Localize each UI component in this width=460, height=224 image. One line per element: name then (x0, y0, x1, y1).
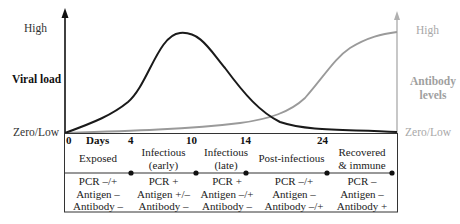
antibody-result: Antibody – (65, 200, 131, 213)
right-high-label: High (416, 24, 439, 36)
stage-name: Exposed (65, 152, 131, 165)
stage-name: Recovered (327, 146, 397, 159)
tests-recovered: PCR – Antigen – Antibody + (327, 175, 397, 213)
pcr-result: PCR + (131, 175, 196, 188)
pcr-result: PCR –/+ (65, 175, 131, 188)
tests-infectious-early: PCR + Antigen +/– Antibody – (131, 175, 196, 213)
right-axis-arrow-icon (394, 11, 400, 20)
right-axis-title-line1: Antibody (406, 74, 460, 88)
tests-exposed: PCR –/+ Antigen – Antibody – (65, 175, 131, 213)
antigen-result: Antigen – (258, 188, 330, 201)
antigen-result: Antigen –/+ (194, 188, 260, 201)
antibody-result: Antibody –/+ (258, 200, 330, 213)
stage-name: Infectious (196, 146, 256, 159)
right-axis-title-line2: levels (406, 88, 460, 102)
antigen-result: Antigen +/– (131, 188, 196, 201)
tests-post-infectious: PCR –/+ Antigen – Antibody –/+ (258, 175, 330, 213)
stage-recovered: Recovered & immune (327, 146, 397, 172)
stage-infectious-late: Infectious (late) (196, 146, 256, 172)
day-tick-4: 4 (128, 134, 134, 146)
left-axis-title: Viral load (12, 73, 61, 85)
days-unit-label: Days (86, 134, 109, 146)
pcr-result: PCR – (327, 175, 397, 188)
left-low-label: Zero/Low (13, 126, 59, 138)
antibody-curve (65, 32, 397, 133)
antibody-result: Antibody – (194, 200, 260, 213)
viral-load-curve (65, 33, 397, 133)
stage-subname: (early) (131, 159, 196, 172)
tests-infectious-late: PCR + Antigen –/+ Antibody – (194, 175, 260, 213)
right-low-label: Zero/Low (405, 126, 451, 138)
stage-subname: & immune (327, 159, 397, 172)
right-axis-title: Antibody levels (406, 74, 460, 102)
stage-infectious-early: Infectious (early) (131, 146, 196, 172)
day-tick-24: 24 (317, 134, 328, 146)
day-tick-0: 0 (66, 134, 72, 146)
antigen-result: Antigen – (327, 188, 397, 201)
pcr-result: PCR –/+ (258, 175, 330, 188)
stage-post-infectious: Post-infectious (256, 152, 327, 165)
left-high-label: High (24, 22, 47, 34)
day-tick-10: 10 (186, 134, 197, 146)
antibody-result: Antibody – (131, 200, 196, 213)
antibody-result: Antibody + (327, 200, 397, 213)
pcr-result: PCR + (194, 175, 260, 188)
stage-subname: (late) (196, 159, 256, 172)
stage-name: Infectious (131, 146, 196, 159)
day-tick-14: 14 (240, 134, 251, 146)
stage-exposed: Exposed (65, 152, 131, 165)
stage-name: Post-infectious (256, 152, 327, 165)
left-axis-arrow-icon (62, 8, 69, 18)
antigen-result: Antigen – (65, 188, 131, 201)
